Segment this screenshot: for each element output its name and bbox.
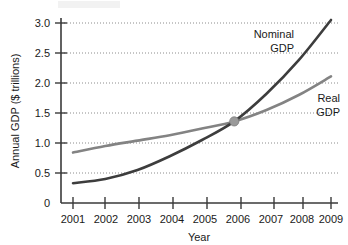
x-label-2002: 2002 [94, 213, 118, 225]
y-label-2-0: 2.0 [35, 77, 50, 89]
x-axis-labels: 2001 2002 2003 2004 2005 2006 2007 2008 … [61, 213, 343, 225]
y-label-2-5: 2.5 [35, 47, 50, 59]
x-label-2004: 2004 [160, 213, 184, 225]
y-label-0-5: 0.5 [35, 167, 50, 179]
series-label-real-line2: GDP [316, 106, 340, 118]
chart-canvas: 3.0 2.5 2.0 1.5 1.0 0.5 0 Annual GDP ($ … [0, 0, 348, 245]
x-label-2006: 2006 [226, 213, 250, 225]
series-label-real-line1: Real [317, 92, 340, 104]
x-axis-title: Year [188, 231, 211, 243]
series-label-nominal-gdp: Nominal GDP [254, 28, 294, 54]
axes [61, 18, 338, 203]
series-label-nominal-line2: GDP [270, 42, 294, 54]
x-label-2008: 2008 [290, 213, 314, 225]
y-label-3-0: 3.0 [35, 17, 50, 29]
gdp-line-chart: 3.0 2.5 2.0 1.5 1.0 0.5 0 Annual GDP ($ … [0, 0, 348, 245]
x-label-2007: 2007 [259, 213, 283, 225]
x-label-2003: 2003 [127, 213, 151, 225]
x-label-2005: 2005 [193, 213, 217, 225]
y-label-1-5: 1.5 [35, 107, 50, 119]
y-axis-labels: 3.0 2.5 2.0 1.5 1.0 0.5 0 [35, 17, 50, 209]
y-label-1-0: 1.0 [35, 137, 50, 149]
gridlines [61, 23, 338, 173]
y-label-0: 0 [44, 197, 50, 209]
series-label-real-gdp: Real GDP [316, 92, 340, 118]
series-label-nominal-line1: Nominal [254, 28, 294, 40]
x-label-2001: 2001 [61, 213, 85, 225]
y-axis-title: Annual GDP ($ trillions) [9, 54, 21, 169]
x-label-2009: 2009 [319, 213, 343, 225]
intersection-point-marker [230, 117, 239, 126]
